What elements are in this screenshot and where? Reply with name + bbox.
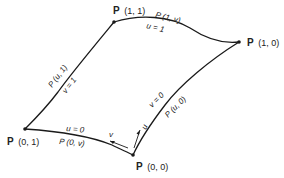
v-arrow-label: v	[109, 130, 114, 139]
edge-top-param-label: u = 1	[146, 21, 166, 34]
corner-label-p00: P (0, 0)	[136, 161, 168, 172]
u-direction-arrow	[134, 130, 140, 148]
edge-right-curve-label: P (u, 0)	[163, 94, 188, 119]
surface-patch-diagram: P (1, 1) P (1, 0) P (0, 1) P (0, 0) P (1…	[0, 0, 284, 178]
corner-dot-p10	[237, 40, 241, 44]
corner-dot-p01	[23, 127, 27, 131]
u-arrow-label: u	[140, 123, 150, 131]
edge-bottom-param-label: u = 0	[66, 124, 85, 135]
edge-left-param-label: v = 1	[60, 76, 78, 95]
corner-label-p11: P (1, 1)	[113, 5, 145, 16]
corner-label-p01: P (0, 1)	[7, 136, 39, 147]
corner-dot-p11	[112, 20, 116, 24]
corner-dot-p00	[131, 153, 135, 157]
edge-bottom-curve-label: P (0, v)	[59, 137, 86, 148]
edge-right-v0	[133, 42, 239, 155]
corner-label-p10: P (1, 0)	[247, 37, 279, 48]
edge-left-v1	[25, 22, 114, 129]
v-direction-arrow	[110, 141, 128, 148]
